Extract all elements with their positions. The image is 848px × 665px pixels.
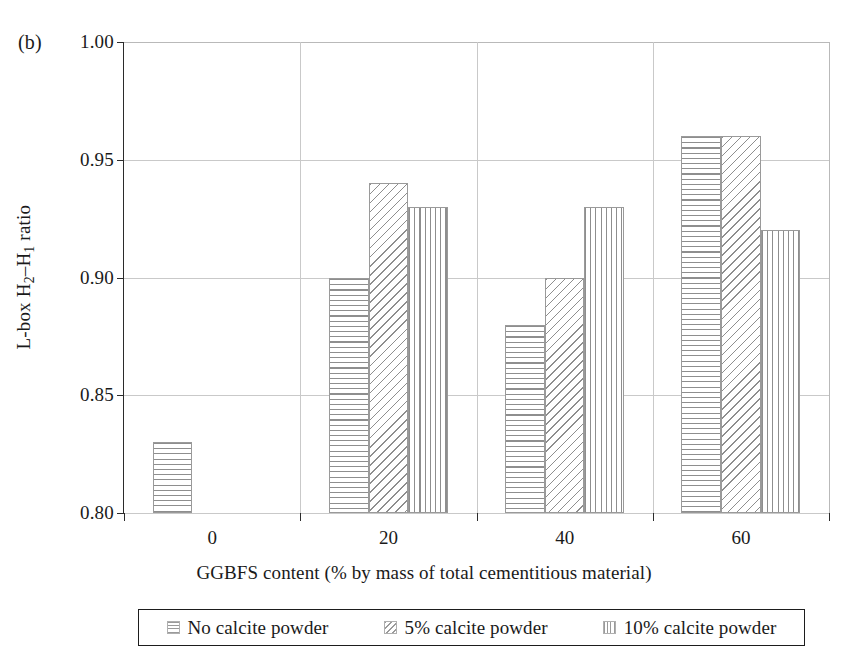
- y-axis-tick: [117, 278, 124, 279]
- x-axis-tick-label: 20: [379, 527, 398, 549]
- bar: [761, 230, 801, 513]
- y-axis-tick: [117, 513, 124, 514]
- y-axis-tick-label: 0.85: [80, 384, 114, 406]
- bar: [584, 207, 624, 513]
- y-axis-tick: [117, 395, 124, 396]
- y-axis-tick-label: 0.80: [80, 502, 114, 524]
- legend-swatch-icon: [603, 621, 616, 634]
- legend-swatch-icon: [384, 621, 397, 634]
- legend-swatch-icon: [167, 621, 180, 634]
- x-axis-tick: [653, 513, 654, 521]
- y-axis-title-suffix: ratio: [13, 205, 34, 246]
- legend-item[interactable]: 10% calcite powder: [603, 617, 777, 639]
- legend-item[interactable]: No calcite powder: [167, 617, 329, 639]
- x-axis-title: GGBFS content (% by mass of total cement…: [0, 562, 848, 584]
- bar: [721, 136, 761, 513]
- figure-panel-b: (b) L-box H2–H1 ratio 1.000.950.900.850.…: [0, 0, 848, 665]
- x-gridline: [653, 42, 654, 513]
- bar: [329, 278, 369, 514]
- bar: [505, 325, 545, 513]
- bar: [153, 442, 193, 513]
- legend-item-label: No calcite powder: [188, 617, 329, 639]
- y-axis-tick-label: 0.90: [80, 267, 114, 289]
- chart-legend: No calcite powder5% calcite powder10% ca…: [138, 609, 805, 646]
- y-axis-title-prefix: L-box H: [13, 284, 34, 350]
- legend-item-label: 5% calcite powder: [405, 617, 548, 639]
- plot-area: 1.000.950.900.850.800204060: [123, 42, 829, 514]
- x-axis-tick: [124, 513, 125, 521]
- legend-item-label: 10% calcite powder: [624, 617, 777, 639]
- y-axis-title-sub1: 2: [21, 277, 36, 284]
- x-axis-tick-label: 60: [731, 527, 750, 549]
- x-gridline: [477, 42, 478, 513]
- x-gridline: [829, 42, 830, 513]
- x-axis-tick: [829, 513, 830, 521]
- x-axis-tick-label: 0: [207, 527, 217, 549]
- bar: [369, 183, 409, 513]
- y-axis-tick: [117, 42, 124, 43]
- legend-item[interactable]: 5% calcite powder: [384, 617, 548, 639]
- x-gridline: [300, 42, 301, 513]
- bar: [681, 136, 721, 513]
- x-axis-tick: [477, 513, 478, 521]
- y-axis-tick: [117, 160, 124, 161]
- y-axis-title: L-box H2–H1 ratio: [10, 42, 40, 513]
- bar: [545, 278, 585, 514]
- x-axis-tick: [300, 513, 301, 521]
- y-axis-tick-label: 0.95: [80, 149, 114, 171]
- y-axis-tick-label: 1.00: [80, 31, 114, 53]
- x-axis-tick-label: 40: [555, 527, 574, 549]
- y-axis-title-mid: –H: [13, 253, 34, 277]
- bar: [408, 207, 448, 513]
- y-axis-title-sub2: 1: [21, 246, 36, 253]
